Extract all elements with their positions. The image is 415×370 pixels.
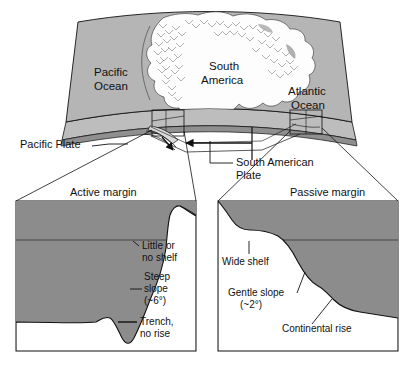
label-steep-slope-1: Steep — [144, 271, 171, 282]
label-trench-2: no rise — [140, 328, 170, 339]
label-atlantic-ocean-line1: Atlantic — [288, 85, 326, 97]
label-pacific-ocean-line2: Ocean — [94, 80, 128, 92]
label-little-or-no-shelf-1: Little or — [142, 240, 175, 251]
label-pacific-plate: Pacific Plate — [20, 138, 81, 150]
figure-canvas: Pacific Ocean South America Atlantic Oce… — [0, 0, 415, 370]
panel-active-margin: Active margin Little or no shelf Steep s… — [16, 186, 196, 351]
label-steep-slope-2: slope — [144, 283, 168, 294]
label-atlantic-ocean-line2: Ocean — [291, 99, 325, 111]
label-pacific-ocean-line1: Pacific — [94, 66, 128, 78]
label-steep-slope-3: (~6°) — [144, 295, 166, 306]
panel-passive-margin: Passive margin Wide shelf Gentle slope (… — [218, 186, 398, 351]
label-south-american-plate-line1: South American — [236, 156, 314, 168]
panel-active-title: Active margin — [70, 186, 137, 198]
label-south-america-line2: America — [201, 74, 244, 86]
label-little-or-no-shelf-2: no shelf — [142, 252, 177, 263]
leader-pacific-plate-2 — [92, 144, 109, 146]
label-continental-rise: Continental rise — [282, 323, 352, 334]
label-gentle-slope-1: Gentle slope — [228, 287, 285, 298]
label-wide-shelf: Wide shelf — [222, 256, 269, 267]
label-trench-1: Trench, — [140, 316, 174, 327]
plate-labels: Pacific Plate South American Plate — [20, 138, 314, 181]
connector-active-right — [184, 131, 196, 201]
panel-passive-title: Passive margin — [290, 186, 365, 198]
label-south-america-line1: South — [209, 60, 239, 72]
map-block: Pacific Ocean South America Atlantic Oce… — [61, 12, 357, 147]
continental-margin-diagram: Pacific Ocean South America Atlantic Oce… — [0, 0, 415, 370]
label-gentle-slope-2: (~2°) — [240, 299, 262, 310]
